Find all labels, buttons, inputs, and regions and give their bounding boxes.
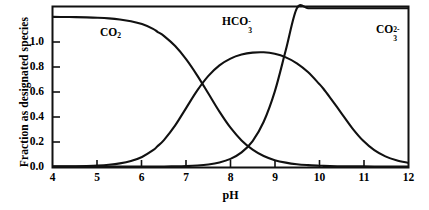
curve-label-co2: CO2 (100, 27, 121, 39)
hco3-formula-sub: 3 (248, 27, 252, 35)
x-tick-label-10: 10 (307, 171, 333, 183)
curve-label-co3: CO2-3 (376, 24, 402, 36)
co3-formula-sub: 3 (393, 35, 397, 43)
x-tick-label-9: 9 (262, 171, 288, 183)
co2-formula-sub: 2 (117, 31, 121, 40)
x-tick-label-7: 7 (173, 171, 199, 183)
co3-formula-sup: 2- (393, 26, 399, 34)
x-tick-label-6: 6 (129, 171, 155, 183)
x-tick-label-5: 5 (84, 171, 110, 183)
co3-formula-base: CO (376, 23, 393, 35)
co2-formula-base: CO (100, 26, 117, 38)
x-tick-label-8: 8 (218, 171, 244, 183)
carbonate-speciation-figure: 1.0 0.8 0.6 0.4 0.2 0.0 4 5 6 7 8 9 10 1… (0, 0, 429, 210)
y-axis-title: Fraction as designated species (18, 6, 30, 178)
hco3-formula-sup: - (248, 18, 251, 26)
x-tick-label-4: 4 (40, 171, 66, 183)
x-tick-label-12: 12 (396, 171, 422, 183)
hco3-formula-base: HCO (222, 15, 248, 27)
curve-label-hco3: HCO-3 (222, 16, 253, 28)
x-axis-title: pH (52, 188, 409, 203)
x-tick-label-11: 11 (351, 171, 377, 183)
